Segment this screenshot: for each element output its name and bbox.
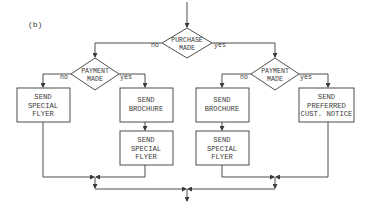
box-text: PREFERRED <box>307 102 346 110</box>
flowchart: (b) PURCHASE MADE no yes PAYMENT MADE no… <box>0 0 370 210</box>
payment-made-decision-right: PAYMENT MADE <box>251 58 299 90</box>
purchase-line1: PURCHASE <box>171 37 203 44</box>
payment-right-no-label: no <box>240 74 248 81</box>
payment-left-line1: PAYMENT <box>81 68 109 75</box>
box-send-brochure-right: SEND BROCHURE <box>196 88 249 122</box>
merge-left-no <box>43 122 94 177</box>
box-text: FLYER <box>211 153 233 161</box>
box-text: SEND <box>213 136 230 144</box>
box-text: SPECIAL <box>131 145 161 153</box>
box-send-brochure-left: SEND BROCHURE <box>120 88 173 122</box>
merge-right-no <box>222 165 274 177</box>
payment-left-line2: MADE <box>87 76 103 83</box>
box-send-special-flyer-left-2: SEND SPECIAL FLYER <box>120 131 173 165</box>
box-text: SEND <box>137 136 154 144</box>
payment-left-no-label: no <box>60 74 68 81</box>
purchase-made-decision: PURCHASE MADE <box>162 28 212 58</box>
box-text: SPECIAL <box>28 102 58 110</box>
box-text: SEND <box>213 96 230 104</box>
box-text: CUST. NOTICE <box>301 110 353 118</box>
merge-right-yes <box>276 122 328 177</box>
panel-label: (b) <box>28 20 42 29</box>
box-send-special-flyer-left: SEND SPECIAL FLYER <box>17 88 70 122</box>
payment-made-decision-left: PAYMENT MADE <box>71 58 119 90</box>
box-text: SEND <box>318 93 335 101</box>
purchase-line2: MADE <box>179 45 195 52</box>
box-text: BROCHURE <box>129 105 164 113</box>
merge-left-yes <box>96 165 145 177</box>
box-text: FLYER <box>135 153 157 161</box>
box-text: BROCHURE <box>205 105 240 113</box>
payment-right-line2: MADE <box>267 76 283 83</box>
box-send-special-flyer-right: SEND SPECIAL FLYER <box>196 131 249 165</box>
payment-right-yes-label: yes <box>300 74 312 81</box>
box-send-preferred-cust-notice: SEND PREFERRED CUST. NOTICE <box>299 88 354 122</box>
payment-left-yes-label: yes <box>120 74 132 81</box>
box-text: SEND <box>137 96 154 104</box>
box-text: FLYER <box>32 110 54 118</box>
box-text: SEND <box>34 93 51 101</box>
payment-right-line1: PAYMENT <box>261 68 289 75</box>
box-text: SPECIAL <box>207 145 237 153</box>
